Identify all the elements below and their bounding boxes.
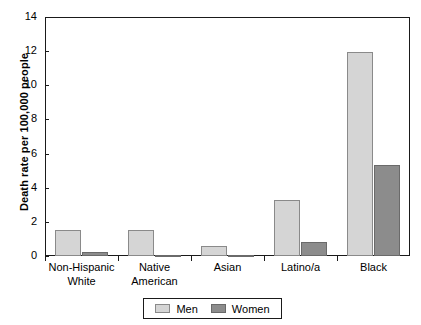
y-tick-label: 12 <box>0 44 37 56</box>
y-tick-label: 0 <box>0 249 37 261</box>
x-label-native-american: NativeAmerican <box>118 260 191 288</box>
y-tick-mark <box>45 51 49 52</box>
chart-legend: MenWomen <box>143 298 282 319</box>
men-swatch <box>155 304 170 313</box>
y-tick-label: 8 <box>0 112 37 124</box>
x-label-line: Latino/a <box>264 260 337 274</box>
y-tick-label: 10 <box>0 78 37 90</box>
x-label-latino-a: Latino/a <box>264 260 337 274</box>
legend-item-men: Men <box>155 303 197 315</box>
x-label-line: Native <box>118 260 191 274</box>
y-tick-mark <box>45 85 49 86</box>
x-label-asian: Asian <box>191 260 264 274</box>
y-tick-label: 6 <box>0 147 37 159</box>
y-tick-label: 14 <box>0 10 37 22</box>
plot-area <box>45 17 410 256</box>
y-tick-mark <box>45 119 49 120</box>
x-label-line: Black <box>337 260 410 274</box>
y-tick-label: 2 <box>0 215 37 227</box>
y-tick-mark <box>45 188 49 189</box>
x-label-line: Asian <box>191 260 264 274</box>
x-label-black: Black <box>337 260 410 274</box>
women-swatch <box>211 304 226 313</box>
x-label-line: American <box>118 274 191 288</box>
y-tick-mark <box>45 17 49 18</box>
legend-label: Women <box>232 303 270 315</box>
x-label-line: White <box>45 274 118 288</box>
chart-screenshot: Death rate per 100,000 people 0246810121… <box>0 0 421 325</box>
x-label-non-hispanic-white: Non-HispanicWhite <box>45 260 118 288</box>
legend-item-women: Women <box>211 303 270 315</box>
y-tick-mark <box>45 222 49 223</box>
legend-label: Men <box>176 303 197 315</box>
y-tick-mark <box>45 154 49 155</box>
y-tick-label: 4 <box>0 181 37 193</box>
x-label-line: Non-Hispanic <box>45 260 118 274</box>
